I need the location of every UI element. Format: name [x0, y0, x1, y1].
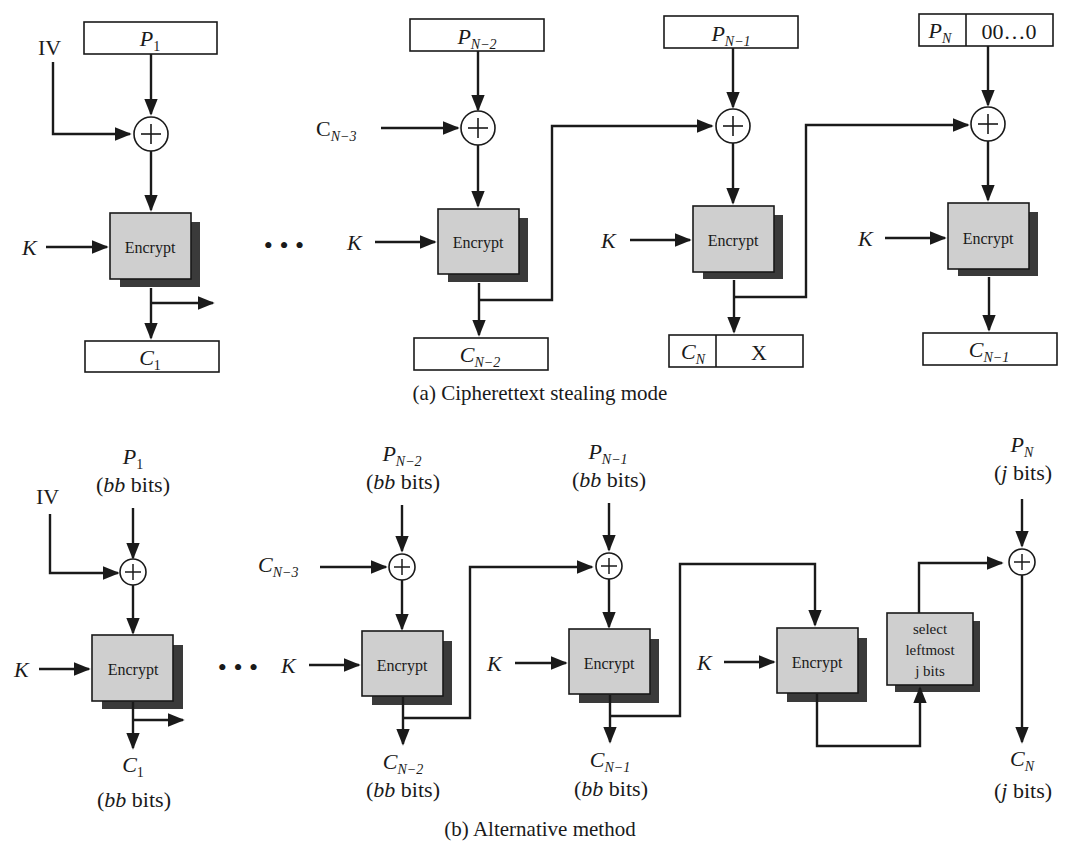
encrypt-label: Encrypt [377, 657, 428, 675]
iv-label: IV [38, 35, 61, 60]
iv-label: IV [36, 484, 59, 509]
xor-icon [971, 107, 1005, 141]
key-label: K [21, 235, 38, 260]
panel-a-stage-n: PN 00…0 Encrypt K CN−1 [857, 14, 1057, 365]
panel-b-stage-1: P1 (bb bits) IV Encrypt K C1 (bb bits) [13, 444, 183, 812]
pn-label: PN [1010, 432, 1034, 460]
key-label: K [857, 226, 874, 251]
panel-b-stage-n-minus-1: PN−1 (bb bits) Encrypt K CN−1 (bb bits) [486, 439, 815, 801]
pn1-bits: (bb bits) [572, 467, 646, 492]
pn1-label: PN−1 [587, 439, 627, 467]
xor-icon [389, 554, 415, 580]
cn3-label: CN−3 [258, 552, 298, 580]
key-label: K [600, 228, 617, 253]
xor-icon [134, 117, 168, 151]
encrypt-label: Encrypt [963, 230, 1014, 248]
key-label: K [280, 653, 297, 678]
cn2-bits: (bb bits) [366, 777, 440, 802]
select-label-line1: select [913, 621, 948, 637]
key-label: K [696, 650, 713, 675]
panel-a-stage-n-minus-2: PN−2 CN−3 Encrypt K CN−2 [316, 19, 712, 370]
encrypt-label: Encrypt [125, 239, 176, 257]
encrypt-label: Encrypt [584, 655, 635, 673]
zero-pad-label: 00…0 [982, 19, 1037, 44]
xor-icon [596, 553, 622, 579]
p1-bits: (bb bits) [96, 472, 170, 497]
panel-b-caption: (b) Alternative method [444, 817, 636, 841]
panel-b-alternative-method: P1 (bb bits) IV Encrypt K C1 (bb bits) •… [13, 432, 1052, 841]
ellipsis: • • • [264, 231, 304, 260]
select-label-line2: leftmost [905, 642, 955, 658]
pn-bits: (j bits) [994, 460, 1052, 485]
xor-icon [120, 559, 146, 585]
panel-a-stage-n-minus-1: PN−1 Encrypt K CN X [600, 16, 968, 367]
ellipsis: • • • [218, 653, 258, 682]
key-label: K [486, 651, 503, 676]
encrypt-label: Encrypt [792, 654, 843, 672]
xor-icon [1009, 549, 1035, 575]
key-label: K [346, 230, 363, 255]
cn2-label: CN−2 [383, 749, 423, 777]
pn2-bits: (bb bits) [366, 469, 440, 494]
ciphertext-stealing-diagram: P1 IV Encrypt K C1 • • • PN−2 [0, 0, 1084, 860]
panel-a-stage-1: P1 IV Encrypt K C1 [21, 22, 219, 373]
panel-a-ciphertext-stealing: P1 IV Encrypt K C1 • • • PN−2 [21, 14, 1057, 405]
key-label: K [13, 657, 30, 682]
encrypt-label: Encrypt [708, 232, 759, 250]
xor-icon [461, 111, 495, 145]
cn-label: CN [1010, 746, 1035, 774]
xor-icon [716, 109, 750, 143]
c1-bits: (bb bits) [97, 787, 171, 812]
c1-label: C1 [122, 752, 144, 780]
panel-b-stage-n-minus-2: PN−2 (bb bits) CN−3 Encrypt K CN−2 (bb b… [258, 441, 592, 802]
cn1-bits: (bb bits) [574, 776, 648, 801]
x-label: X [751, 340, 767, 365]
cn3-label: CN−3 [316, 116, 356, 144]
pn2-label: PN−2 [381, 441, 421, 469]
cn-bits: (j bits) [994, 778, 1052, 803]
panel-b-stage-n: Encrypt K select leftmost j bits PN (j b… [696, 432, 1052, 803]
panel-a-caption: (a) Cipherettext stealing mode [413, 381, 668, 405]
encrypt-label: Encrypt [108, 661, 159, 679]
select-label-line3: j bits [914, 663, 945, 679]
cn1-label: CN−1 [590, 747, 630, 775]
encrypt-label: Encrypt [453, 234, 504, 252]
p1-label: P1 [122, 444, 143, 472]
